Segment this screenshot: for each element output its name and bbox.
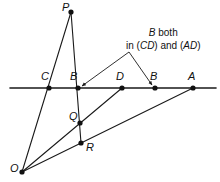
point-label-O: O — [10, 163, 19, 174]
point-dot-C — [46, 85, 51, 90]
point-label-P: P — [62, 2, 69, 13]
annotation-line-2: in (CD) and (AD) — [126, 40, 201, 53]
annotation-line1-rest: both — [155, 27, 177, 38]
point-dot-Q — [77, 120, 82, 125]
annotation-line-1: B both — [126, 27, 201, 40]
annotation-line2-prefix: in ( — [126, 40, 140, 51]
geometry-diagram: PCBDBAQRO B both in (CD) and (AD) — [0, 0, 220, 182]
point-dot-B2 — [152, 85, 157, 90]
annotation-line2-middle: ) and ( — [154, 40, 183, 51]
arrow-to-B2 — [129, 52, 152, 85]
point-label-C: C — [41, 71, 49, 82]
annotation-b-both: B both in (CD) and (AD) — [126, 27, 201, 52]
point-label-R: R — [86, 142, 94, 153]
point-label-B1: B — [70, 71, 77, 82]
point-label-D: D — [116, 71, 124, 82]
point-dot-O — [19, 169, 24, 174]
segment-P-C-O — [22, 12, 71, 172]
annotation-line2-suffix: ) — [197, 40, 200, 51]
point-dot-B1 — [75, 85, 80, 90]
annotation-line2-italic-ad: AD — [183, 40, 197, 51]
point-label-Q: Q — [69, 111, 78, 122]
point-dot-R — [78, 140, 83, 145]
point-dot-A — [190, 85, 195, 90]
annotation-line2-italic-cd: CD — [140, 40, 154, 51]
point-label-B2: B — [150, 71, 157, 82]
point-dot-D — [119, 85, 124, 90]
point-label-A: A — [188, 71, 195, 82]
